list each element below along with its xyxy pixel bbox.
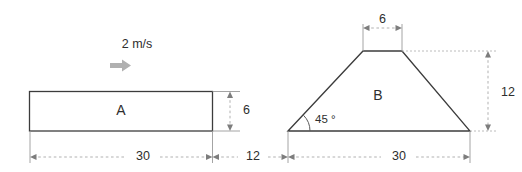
wedge-b-group: [288, 24, 497, 163]
wedge-b-top-arrow-right: [396, 25, 403, 31]
diagram-canvas: 2 m/s A 6 30 12 6 B 45 ° 12 30: [0, 0, 522, 172]
gap-arrow-right: [282, 154, 289, 160]
velocity-arrow-icon: [110, 60, 131, 72]
wedge-b-base-label: 30: [392, 149, 406, 163]
wedge-b-height-arrow-top: [485, 51, 491, 58]
block-a-height-arrow-top: [227, 92, 233, 99]
block-a-length-arrow-right: [206, 154, 213, 160]
wedge-b-height-label: 12: [501, 85, 515, 99]
technical-diagram: 2 m/s A 6 30 12 6 B 45 ° 12 30: [0, 0, 522, 172]
gap-label: 12: [246, 149, 260, 163]
velocity-label: 2 m/s: [122, 37, 153, 51]
wedge-b-height-arrow-bottom: [485, 125, 491, 132]
angle-label: 45 °: [315, 113, 336, 125]
wedge-b-base-arrow-right: [464, 154, 471, 160]
block-a-height-arrow-bottom: [227, 125, 233, 132]
block-a-label: A: [116, 102, 126, 118]
wedge-b-top-arrow-left: [363, 25, 370, 31]
wedge-b-label: B: [373, 87, 382, 103]
block-a-length-arrow-left: [30, 154, 37, 160]
block-a-height-label: 6: [243, 103, 250, 117]
wedge-b-top-label: 6: [379, 12, 386, 26]
block-a-length-label: 30: [136, 149, 150, 163]
gap-arrow-left: [213, 154, 220, 160]
wedge-b-base-arrow-left: [288, 154, 295, 160]
